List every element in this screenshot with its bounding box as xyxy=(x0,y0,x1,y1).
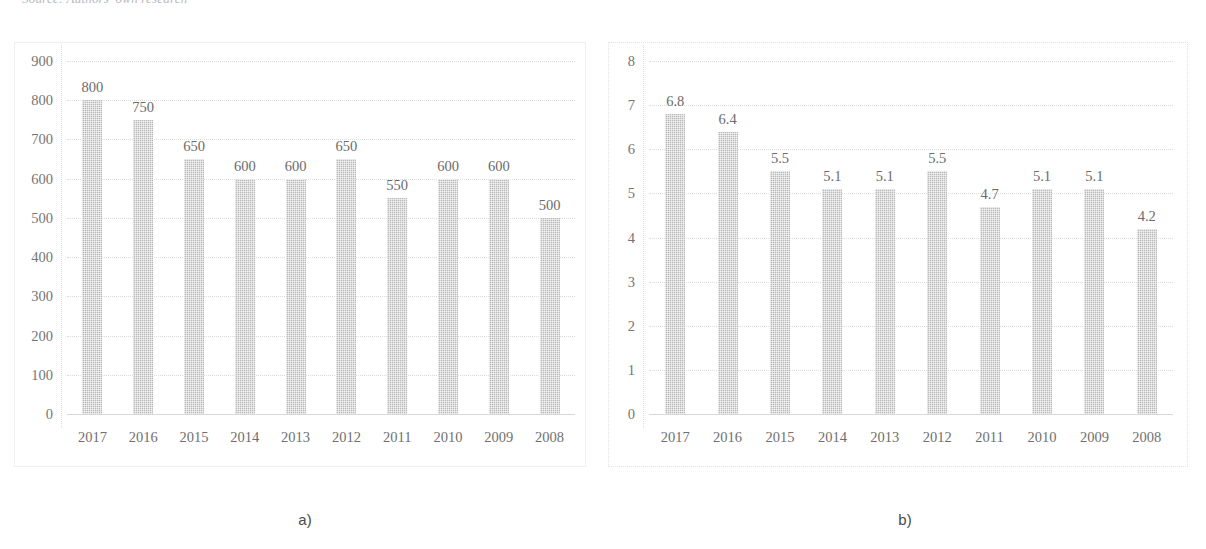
chart-b-frame: 8765432106.820176.420165.520155.120145.1… xyxy=(608,42,1188,467)
plot-b-bar xyxy=(1032,189,1052,414)
plot-a-y-axis-line xyxy=(61,45,62,428)
plot-b-gridline xyxy=(649,61,1173,62)
plot-b-x-tick-label: 2012 xyxy=(907,430,967,445)
plot-a-y-tick-label: 100 xyxy=(15,368,53,383)
plot-a-bar-value-label: 500 xyxy=(520,198,580,213)
chart-a-plot-area: 9008007006005004003002001000800201775020… xyxy=(15,43,585,466)
plot-a-bar-value-label: 600 xyxy=(266,159,326,174)
plot-b-bar-value-label: 5.1 xyxy=(855,169,915,184)
plot-b-x-tick-label: 2011 xyxy=(960,430,1020,445)
plot-b-y-tick-label: 7 xyxy=(609,98,635,113)
plot-b-bar-value-label: 4.7 xyxy=(960,187,1020,202)
plot-a-bar xyxy=(540,218,560,414)
plot-b-bar-value-label: 6.4 xyxy=(698,112,758,127)
plot-b-x-tick-label: 2009 xyxy=(1064,430,1124,445)
plot-a-bar xyxy=(184,159,204,414)
plot-b-bar xyxy=(822,189,842,414)
plot-a-bar xyxy=(387,198,407,414)
plot-b-y-tick-label: 3 xyxy=(609,274,635,289)
source-caption: Source: Authors' own research xyxy=(22,0,187,7)
plot-b-y-tick-label: 0 xyxy=(609,407,635,422)
plot-b-y-tick-label: 8 xyxy=(609,54,635,69)
plot-b-bar xyxy=(980,207,1000,414)
plot-b-bar-value-label: 5.5 xyxy=(750,151,810,166)
plot-a-y-tick-label: 700 xyxy=(15,132,53,147)
plot-a-bar-value-label: 550 xyxy=(367,178,427,193)
plot-b-x-tick-label: 2008 xyxy=(1117,430,1177,445)
plot-b-x-tick-label: 2013 xyxy=(855,430,915,445)
plot-b-bar xyxy=(665,114,685,414)
plot-b-bar-value-label: 4.2 xyxy=(1117,209,1177,224)
plot-a-bar xyxy=(82,100,102,414)
plot-b-y-tick-label: 2 xyxy=(609,319,635,334)
plot-b-x-tick-label: 2017 xyxy=(645,430,705,445)
chart-b-plot-area: 8765432106.820176.420165.520155.120145.1… xyxy=(609,43,1187,466)
plot-a-bar xyxy=(133,120,153,414)
plot-a-bar-value-label: 750 xyxy=(113,100,173,115)
chart-a-caption: a) xyxy=(240,511,370,528)
plot-a-bar-value-label: 650 xyxy=(316,139,376,154)
plot-b-bar-value-label: 5.1 xyxy=(1064,169,1124,184)
plot-a-y-tick-label: 300 xyxy=(15,289,53,304)
plot-b-bar-value-label: 5.5 xyxy=(907,151,967,166)
plot-b-y-tick-label: 4 xyxy=(609,230,635,245)
plot-a-y-tick-label: 800 xyxy=(15,93,53,108)
plot-a-bar-value-label: 600 xyxy=(469,159,529,174)
plot-b-gridline xyxy=(649,414,1173,415)
plot-a-bar xyxy=(286,179,306,414)
plot-b-gridline xyxy=(649,105,1173,106)
plot-b-bar xyxy=(1084,189,1104,414)
plot-b-y-tick-label: 1 xyxy=(609,363,635,378)
plot-a-bar xyxy=(336,159,356,414)
plot-a-gridline xyxy=(67,61,575,62)
plot-b-x-tick-label: 2015 xyxy=(750,430,810,445)
plot-b-y-tick-label: 6 xyxy=(609,142,635,157)
plot-b-bar-value-label: 5.1 xyxy=(802,169,862,184)
plot-b-bar xyxy=(718,132,738,414)
plot-a-y-tick-label: 200 xyxy=(15,328,53,343)
plot-b-y-axis-line xyxy=(643,45,644,428)
plot-a-y-tick-label: 500 xyxy=(15,211,53,226)
plot-b-bar xyxy=(770,171,790,414)
chart-b-caption: b) xyxy=(840,511,970,528)
plot-a-bar xyxy=(489,179,509,414)
plot-b-bar xyxy=(1137,229,1157,414)
plot-b-x-tick-label: 2016 xyxy=(698,430,758,445)
plot-a-bar-value-label: 800 xyxy=(62,80,122,95)
plot-b-x-tick-label: 2014 xyxy=(802,430,862,445)
figure-page: Source: Authors' own research 9008007006… xyxy=(0,0,1206,549)
plot-a-bar xyxy=(438,179,458,414)
plot-b-x-tick-label: 2010 xyxy=(1012,430,1072,445)
plot-a-y-tick-label: 400 xyxy=(15,250,53,265)
plot-b-bar-value-label: 5.1 xyxy=(1012,169,1072,184)
plot-a-bar-value-label: 650 xyxy=(164,139,224,154)
chart-a-frame: 9008007006005004003002001000800201775020… xyxy=(14,42,586,467)
plot-a-gridline xyxy=(67,414,575,415)
plot-b-bar xyxy=(927,171,947,414)
plot-a-x-tick-label: 2008 xyxy=(520,430,580,445)
plot-a-y-tick-label: 900 xyxy=(15,54,53,69)
plot-b-bar xyxy=(875,189,895,414)
plot-a-y-tick-label: 600 xyxy=(15,171,53,186)
plot-b-bar-value-label: 6.8 xyxy=(645,94,705,109)
plot-a-bar xyxy=(235,179,255,414)
plot-a-y-tick-label: 0 xyxy=(15,407,53,422)
plot-b-y-tick-label: 5 xyxy=(609,186,635,201)
